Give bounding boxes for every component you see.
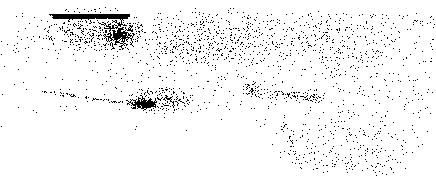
bitonal-noise-layer bbox=[0, 0, 436, 194]
scanned-image-canvas: Degraded bitonal scan Heavily thresholde… bbox=[0, 0, 436, 194]
